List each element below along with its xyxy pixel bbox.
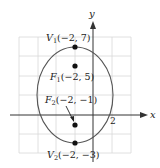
focus-f2-point <box>72 122 77 127</box>
label-v1: V1(−2, 7) <box>46 32 91 45</box>
ellipse-diagram: x y 2 V1(−2, 7) F1(−2, 5) F2(−2, −1) V2(… <box>0 0 160 168</box>
y-axis-arrow-icon <box>90 21 96 29</box>
x-tick-label: 2 <box>110 116 116 126</box>
f2-pointer-arrow-icon <box>70 116 74 122</box>
label-f1: F1(−2, 5) <box>49 71 94 84</box>
y-axis-label: y <box>88 8 95 19</box>
label-f2: F2(−2, −1) <box>44 94 97 107</box>
vertex-v2-point <box>72 140 77 145</box>
label-v2: V2(−2, −3) <box>47 149 99 162</box>
x-axis-label: x <box>150 109 156 120</box>
focus-f1-point <box>72 63 77 68</box>
x-axis-arrow-icon <box>140 112 148 118</box>
vertex-v1-point <box>72 44 77 49</box>
